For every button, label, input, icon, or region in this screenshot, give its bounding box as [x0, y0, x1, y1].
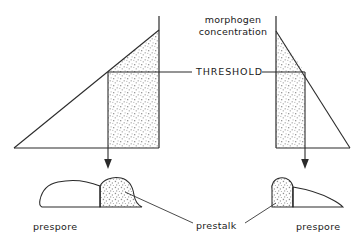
chart-title-line-2: concentration [188, 26, 278, 38]
right-slug-prestalk-zone [272, 178, 293, 207]
right-prestalk-region-fill [276, 31, 305, 148]
figure-canvas [0, 0, 363, 251]
chart-title: morphogen concentration [188, 14, 278, 38]
prespore-left-label: prespore [33, 221, 77, 233]
morphogen-gradient-figure: morphogen concentration THRESHOLD prespo… [0, 0, 363, 251]
left-slug-prespore-zone [40, 181, 100, 207]
left-projection-arrow-head [104, 159, 112, 169]
left-gradient-plot [14, 16, 159, 169]
right-slug [245, 178, 343, 223]
right-slug-prespore-zone [293, 187, 343, 207]
left-prestalk-region-fill [108, 30, 159, 148]
prespore-right-label: prespore [296, 221, 340, 233]
chart-title-line-1: morphogen [188, 14, 278, 26]
right-gradient-plot [276, 16, 350, 169]
prestalk-label: prestalk [196, 220, 237, 232]
right-projection-arrow-head [301, 159, 309, 169]
left-slug [40, 177, 193, 223]
left-slug-prestalk-zone [100, 177, 142, 207]
right-prestalk-leader-line [245, 203, 276, 223]
threshold-label: THRESHOLD [196, 66, 263, 78]
